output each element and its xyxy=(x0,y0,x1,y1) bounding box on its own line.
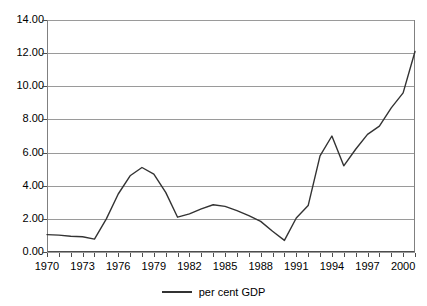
x-tick-mark xyxy=(225,253,226,257)
x-tick-label: 2000 xyxy=(386,260,420,272)
x-tick-mark xyxy=(296,253,297,257)
x-tick-label: 1970 xyxy=(30,260,64,272)
x-tick-mark xyxy=(201,253,202,257)
chart-container: 0.002.004.006.008.0010.0012.0014.00 1970… xyxy=(0,0,427,306)
x-tick-mark xyxy=(344,253,345,257)
x-tick-mark xyxy=(106,253,107,257)
x-tick-label: 1997 xyxy=(351,260,385,272)
x-tick-mark xyxy=(379,253,380,257)
x-tick-mark xyxy=(261,253,262,257)
x-tick-mark xyxy=(47,253,48,257)
x-tick-mark xyxy=(368,253,369,257)
x-tick-mark xyxy=(59,253,60,257)
x-tick-mark xyxy=(213,253,214,257)
x-tick-mark xyxy=(237,253,238,257)
x-tick-mark xyxy=(391,253,392,257)
y-tick-label: 12.00 xyxy=(4,47,44,58)
x-tick-mark xyxy=(189,253,190,257)
x-tick-label: 1994 xyxy=(315,260,349,272)
x-tick-mark xyxy=(178,253,179,257)
y-tick-label: 10.00 xyxy=(4,80,44,91)
x-tick-mark xyxy=(83,253,84,257)
x-tick-mark xyxy=(332,253,333,257)
x-tick-mark xyxy=(415,253,416,257)
x-tick-mark xyxy=(118,253,119,257)
y-tick-label: 0.00 xyxy=(4,246,44,257)
x-tick-label: 1988 xyxy=(244,260,278,272)
plot-area xyxy=(47,20,415,252)
x-tick-mark xyxy=(71,253,72,257)
x-tick-mark xyxy=(94,253,95,257)
x-tick-mark xyxy=(249,253,250,257)
x-tick-mark xyxy=(166,253,167,257)
x-tick-label: 1973 xyxy=(66,260,100,272)
x-tick-mark xyxy=(130,253,131,257)
x-tick-mark xyxy=(403,253,404,257)
x-tick-label: 1991 xyxy=(279,260,313,272)
x-axis-ticks xyxy=(47,253,415,259)
x-tick-mark xyxy=(284,253,285,257)
legend-label: per cent GDP xyxy=(199,286,266,298)
x-tick-mark xyxy=(273,253,274,257)
x-tick-label: 1976 xyxy=(101,260,135,272)
x-tick-label: 1979 xyxy=(137,260,171,272)
x-tick-mark xyxy=(142,253,143,257)
y-tick-label: 8.00 xyxy=(4,113,44,124)
chart-legend: per cent GDP xyxy=(0,281,427,303)
x-tick-mark xyxy=(320,253,321,257)
y-tick-label: 14.00 xyxy=(4,14,44,25)
x-tick-mark xyxy=(154,253,155,257)
series-line-per-cent-gdp xyxy=(47,20,415,252)
x-tick-label: 1982 xyxy=(172,260,206,272)
y-tick-label: 6.00 xyxy=(4,147,44,158)
x-tick-mark xyxy=(356,253,357,257)
x-tick-mark xyxy=(308,253,309,257)
y-tick-label: 2.00 xyxy=(4,213,44,224)
y-tick-label: 4.00 xyxy=(4,180,44,191)
x-tick-label: 1985 xyxy=(208,260,242,272)
legend-line-swatch xyxy=(162,291,192,293)
